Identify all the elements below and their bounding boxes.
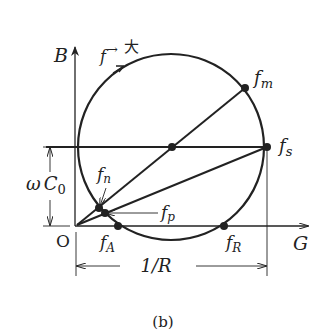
direction-note-arrow: → xyxy=(107,42,118,57)
origin-label: O xyxy=(56,231,70,251)
label-fn: fn xyxy=(95,164,111,186)
label-fa: fA xyxy=(98,232,115,255)
direction-note-big: 大 xyxy=(124,38,139,56)
label-fs: fs xyxy=(277,135,293,159)
label-fp: fp xyxy=(159,202,175,224)
b-axis-label: B xyxy=(53,44,68,66)
circle-direction-arrow-icon xyxy=(113,66,124,73)
label-one-over-r: 1/R xyxy=(140,255,171,276)
label-fr: fR xyxy=(224,232,241,255)
admittance-circle-diagram: B G O f → 大 fm fs fn fp fA fR ωC0 1/R (b… xyxy=(0,0,328,336)
point-fs xyxy=(263,143,271,151)
figure-caption: (b) xyxy=(152,313,173,331)
point-fa xyxy=(114,222,122,230)
point-fm xyxy=(241,84,249,92)
point-fp xyxy=(101,209,109,217)
point-center xyxy=(168,143,176,151)
label-fm: fm xyxy=(252,67,273,91)
point-fr xyxy=(220,222,228,230)
label-omega-c0: ωC0 xyxy=(26,173,66,197)
g-axis-label: G xyxy=(293,232,308,254)
